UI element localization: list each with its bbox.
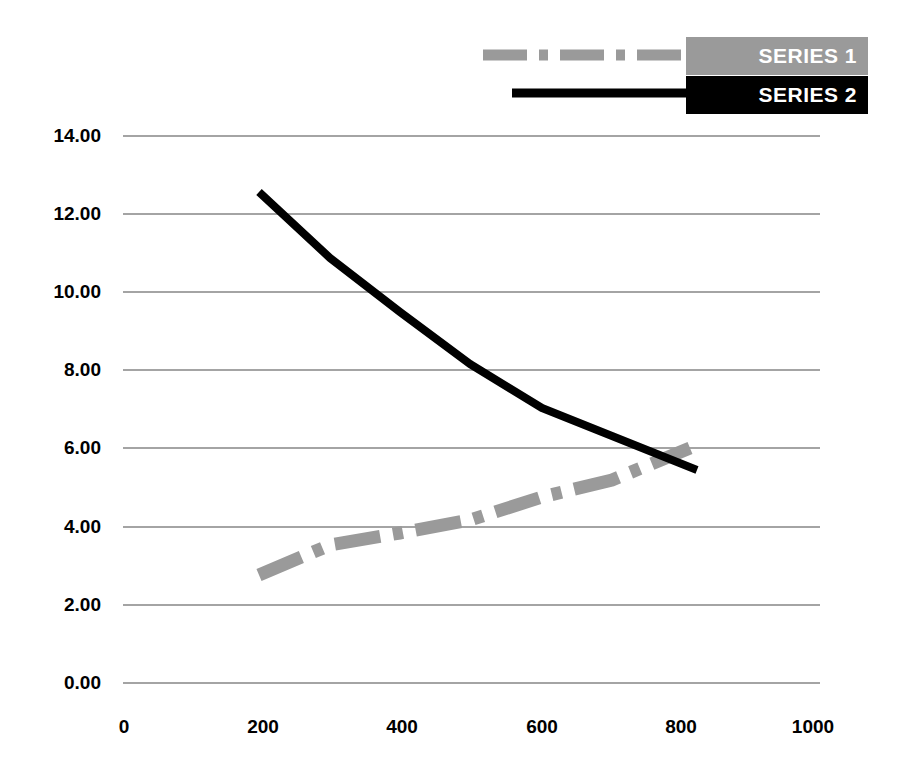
y-tick-label: 6.00 (64, 437, 101, 458)
y-tick-label: 0.00 (64, 672, 101, 693)
x-tick-label: 800 (665, 716, 697, 737)
line-chart: 14.00 12.00 10.00 8.00 6.00 4.00 2.00 0.… (0, 0, 912, 783)
y-tick-label: 4.00 (64, 516, 101, 537)
chart-background (0, 0, 912, 783)
legend-label-series-2: SERIES 2 (758, 83, 857, 106)
y-tick-label: 8.00 (64, 359, 101, 380)
chart-container: 14.00 12.00 10.00 8.00 6.00 4.00 2.00 0.… (0, 0, 912, 783)
x-tick-label: 600 (526, 716, 558, 737)
x-tick-label: 400 (386, 716, 418, 737)
y-tick-label: 12.00 (53, 203, 101, 224)
x-tick-label: 1000 (792, 716, 834, 737)
x-tick-label: 200 (247, 716, 279, 737)
y-tick-label: 14.00 (53, 125, 101, 146)
y-tick-label: 2.00 (64, 594, 101, 615)
x-tick-label: 0 (119, 716, 130, 737)
y-tick-label: 10.00 (53, 281, 101, 302)
legend-label-series-1: SERIES 1 (758, 44, 857, 67)
